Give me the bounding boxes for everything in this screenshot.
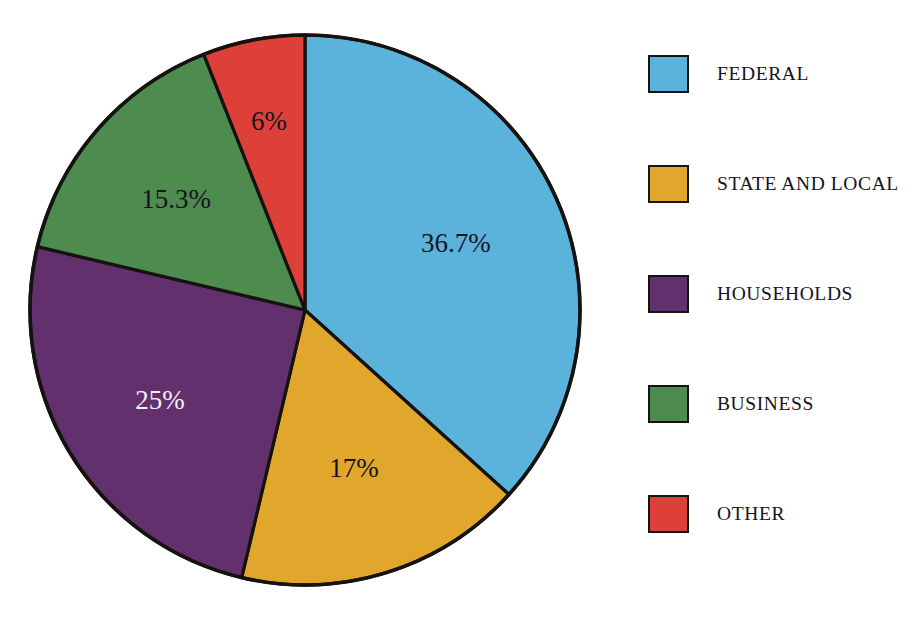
legend-swatch-icon: [648, 495, 689, 533]
legend-item-label: HOUSEHOLDS: [717, 284, 853, 304]
pie-chart-figure: 36.7%17%25%15.3%6% FEDERALSTATE AND LOCA…: [0, 0, 924, 622]
legend-item-federal[interactable]: FEDERAL: [648, 52, 916, 96]
pie-chart-plot-area: 36.7%17%25%15.3%6%: [28, 22, 588, 602]
legend-item-label: BUSINESS: [717, 394, 814, 414]
legend-item-state-and-local[interactable]: STATE AND LOCAL: [648, 162, 916, 206]
pie-slice-value-label: 15.3%: [141, 184, 211, 214]
legend-item-households[interactable]: HOUSEHOLDS: [648, 272, 916, 316]
pie-slice-value-label: 17%: [329, 453, 379, 483]
pie-slice-group: [30, 35, 580, 585]
pie-slice-value-label: 36.7%: [421, 228, 491, 258]
pie-chart-svg: 36.7%17%25%15.3%6%: [28, 22, 588, 602]
legend-swatch-icon: [648, 165, 689, 203]
legend-item-label: STATE AND LOCAL: [717, 174, 899, 194]
pie-slice-value-label: 6%: [251, 106, 287, 136]
pie-slice-value-label: 25%: [135, 385, 185, 415]
legend-item-label: FEDERAL: [717, 64, 809, 84]
legend-item-label: OTHER: [717, 504, 785, 524]
legend-item-other[interactable]: OTHER: [648, 492, 916, 536]
chart-legend: FEDERALSTATE AND LOCALHOUSEHOLDSBUSINESS…: [648, 52, 916, 582]
legend-item-business[interactable]: BUSINESS: [648, 382, 916, 426]
legend-swatch-icon: [648, 55, 689, 93]
legend-swatch-icon: [648, 385, 689, 423]
legend-swatch-icon: [648, 275, 689, 313]
